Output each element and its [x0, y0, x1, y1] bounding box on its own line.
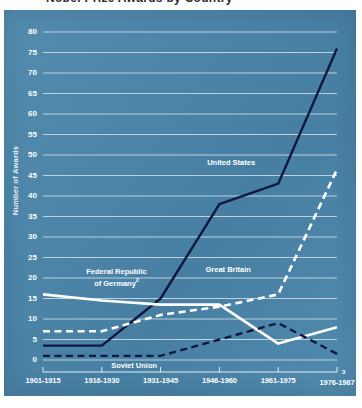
y-tick-label-10: 10: [15, 314, 37, 323]
germany-label-line1: Federal Republic: [86, 267, 146, 276]
line-chart-canvas: [0, 0, 362, 408]
nobel-awards-figure: Nobel Prize Awards by Country Number of …: [0, 0, 362, 408]
y-tick-label-80: 80: [15, 27, 37, 36]
y-tick-label-15: 15: [15, 294, 37, 303]
y-tick-label-75: 75: [15, 48, 37, 57]
x-tick-label-1961-1975: 1961-1975: [247, 376, 309, 385]
x-tick-label-1916-1930: 1916-1930: [71, 376, 133, 385]
y-tick-label-30: 30: [15, 232, 37, 241]
y-tick-label-5: 5: [15, 335, 37, 344]
y-tick-label-70: 70: [15, 68, 37, 77]
y-tick-label-55: 55: [15, 130, 37, 139]
y-tick-label-20: 20: [15, 273, 37, 282]
series-label-great-britain: Great Britain: [188, 265, 268, 274]
y-tick-label-0: 0: [15, 355, 37, 364]
x-tick-label-1931-1945: 1931-1945: [130, 376, 192, 385]
germany-label-line2: of Germany: [94, 279, 136, 288]
y-tick-label-45: 45: [15, 171, 37, 180]
y-tick-label-35: 35: [15, 212, 37, 221]
series-label-soviet-union: Soviet Union: [94, 361, 174, 370]
x-tick-label-1901-1915: 1901-1915: [12, 376, 74, 385]
x-tick-label-1946-1960: 1946-1960: [188, 376, 250, 385]
y-tick-label-60: 60: [15, 109, 37, 118]
y-tick-label-40: 40: [15, 191, 37, 200]
germany-footnote-marker: 2: [136, 277, 139, 283]
x-tick-label-1976-1987: 1976-1987: [306, 376, 362, 387]
page-number: 3: [342, 369, 345, 375]
y-tick-label-65: 65: [15, 89, 37, 98]
y-tick-label-25: 25: [15, 253, 37, 262]
y-tick-label-50: 50: [15, 150, 37, 159]
series-label-germany: Federal Republic of Germany2: [77, 267, 157, 288]
series-label-united-states: United States: [191, 158, 271, 167]
series-line-united-states: [43, 48, 337, 345]
